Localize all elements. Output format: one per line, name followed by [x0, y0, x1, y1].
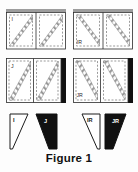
- shape-j-graphic: J: [35, 113, 60, 150]
- panel-jr-label: JR: [77, 92, 84, 98]
- panel-ir: IR: [73, 9, 133, 50]
- panel-i-top-bar: [6, 9, 66, 12]
- shape-j: J: [35, 113, 60, 150]
- shape-i-graphic: I: [9, 113, 34, 150]
- shape-ir-label: IR: [87, 117, 93, 123]
- panel-i-label: I: [12, 16, 13, 22]
- panel-i: I: [6, 9, 66, 50]
- panel-j-right-bar: [61, 58, 66, 103]
- panel-jr-graphic: JR: [73, 58, 133, 103]
- panel-j: J: [6, 58, 66, 103]
- panel-j-label: J: [11, 63, 14, 69]
- panel-jr: JR: [73, 58, 133, 103]
- panel-jr-right-bar: [128, 58, 133, 103]
- shape-ir: IR: [76, 113, 101, 150]
- panel-ir-top-bar: [73, 9, 133, 12]
- panel-ir-label: IR: [77, 39, 82, 45]
- figure-container: I IR: [0, 0, 138, 172]
- shape-jr: JR: [102, 113, 127, 150]
- shape-jr-graphic: JR: [102, 113, 127, 150]
- panel-ir-graphic: IR: [73, 9, 133, 50]
- shape-j-label: J: [44, 118, 47, 124]
- shape-ir-graphic: IR: [76, 113, 101, 150]
- panel-i-graphic: I: [6, 9, 66, 50]
- shape-i: I: [9, 113, 34, 150]
- figure-caption: Figure 1: [0, 152, 138, 164]
- shape-jr-label: JR: [112, 118, 119, 124]
- panel-j-graphic: J: [6, 58, 66, 103]
